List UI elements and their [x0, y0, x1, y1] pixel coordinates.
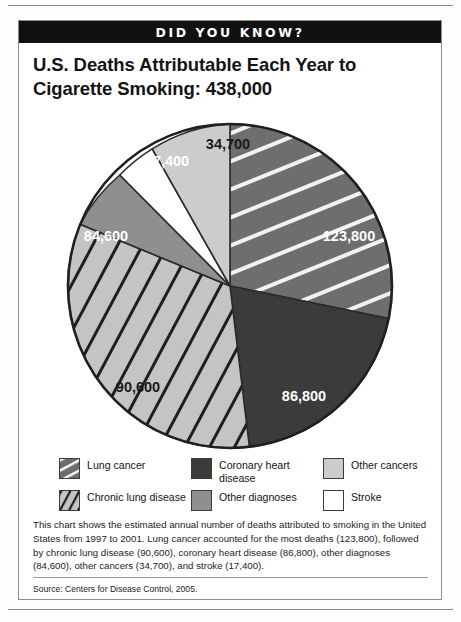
legend-label-chronic-lung-disease: Chronic lung disease — [87, 490, 186, 504]
legend-item-stroke: Stroke — [323, 490, 419, 511]
legend-label-stroke: Stroke — [351, 490, 382, 504]
legend-swatch-coronary-heart-disease-icon — [191, 458, 212, 479]
legend-item-lung-cancer: Lung cancer — [59, 458, 191, 479]
legend-swatch-lung-cancer-icon — [59, 458, 80, 479]
pie-label-other-diagnoses: 84,600 — [84, 228, 128, 244]
page-bottom-rule — [8, 609, 453, 610]
legend-swatch-stroke-icon — [323, 490, 344, 511]
legend-label-lung-cancer: Lung cancer — [87, 458, 145, 472]
caption-divider — [33, 577, 428, 578]
page-title: U.S. Deaths Attributable Each Year to Ci… — [33, 53, 423, 100]
pie-label-chronic-lung-disease: 90,600 — [116, 379, 160, 395]
pie-label-other-cancers: 34,700 — [206, 136, 250, 152]
legend-label-other-diagnoses: Other diagnoses — [219, 490, 297, 504]
pie-label-stroke: 17,400 — [145, 153, 189, 169]
chart-caption: This chart shows the estimated annual nu… — [33, 518, 429, 573]
page-top-rule — [8, 5, 453, 6]
legend-item-chronic-lung-disease: Chronic lung disease — [59, 490, 191, 511]
pie-label-lung-cancer: 123,800 — [323, 228, 375, 244]
chart-legend: Lung cancer Coronary heart disease Other… — [59, 458, 419, 522]
source-line: Source: Centers for Disease Control, 200… — [33, 584, 429, 595]
did-you-know-banner: DID YOU KNOW? — [19, 21, 441, 43]
legend-swatch-other-diagnoses-icon — [191, 490, 212, 511]
legend-label-other-cancers: Other cancers — [351, 458, 418, 472]
legend-swatch-chronic-lung-disease-icon — [59, 490, 80, 511]
legend-swatch-other-cancers-icon — [323, 458, 344, 479]
banner-label: DID YOU KNOW? — [155, 25, 304, 40]
pie-chart: 123,800 86,800 90,600 84,600 17,400 34,7… — [19, 116, 441, 456]
pie-chart-svg: 123,800 86,800 90,600 84,600 17,400 34,7… — [60, 116, 400, 456]
legend-item-other-cancers: Other cancers — [323, 458, 419, 479]
legend-label-coronary-heart-disease: Coronary heart disease — [219, 458, 323, 484]
fact-box-frame: DID YOU KNOW? U.S. Deaths Attributable E… — [18, 20, 442, 600]
legend-item-coronary-heart-disease: Coronary heart disease — [191, 458, 323, 484]
pie-label-coronary-heart-disease: 86,800 — [282, 388, 326, 404]
pie-slice-lung-cancer — [230, 124, 392, 319]
legend-item-other-diagnoses: Other diagnoses — [191, 490, 323, 511]
